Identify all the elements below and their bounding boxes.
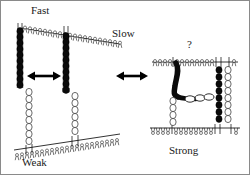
filament-dark-right-column bbox=[216, 66, 231, 122]
filament-pale-left-1 bbox=[26, 88, 32, 154]
label-question: ? bbox=[187, 39, 192, 50]
label-strong: Strong bbox=[169, 145, 198, 156]
arrow-center-double bbox=[116, 72, 148, 81]
label-fast: Fast bbox=[31, 5, 49, 16]
filament-dark-left-2 bbox=[63, 26, 70, 93]
label-weak: Weak bbox=[22, 157, 47, 168]
membrane-upper-left bbox=[22, 26, 122, 48]
filament-dark-left-1 bbox=[17, 23, 23, 88]
filament-pale-left-2 bbox=[72, 92, 78, 147]
filament-pale-right bbox=[170, 97, 176, 125]
arrow-left-double bbox=[27, 72, 61, 81]
membrane-upper-right bbox=[152, 57, 238, 67]
filament-dark-bent-right bbox=[174, 63, 214, 102]
label-slow: Slow bbox=[112, 28, 135, 39]
figure-canvas: Fast Slow Weak Strong ? bbox=[0, 0, 250, 175]
membrane-lower-right bbox=[150, 124, 240, 135]
